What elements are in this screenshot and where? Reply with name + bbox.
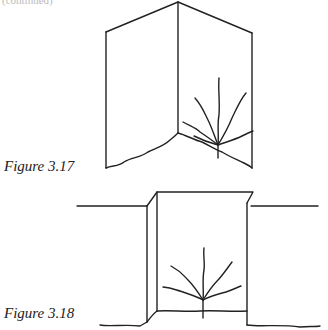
figure-caption-3-18: Figure 3.18 bbox=[4, 305, 74, 322]
document-page: (continued) bbox=[0, 0, 328, 330]
figure-caption-3-17: Figure 3.17 bbox=[4, 158, 74, 175]
figure-3-17-drawing bbox=[106, 2, 253, 168]
figure-3-18-drawing bbox=[77, 192, 320, 327]
